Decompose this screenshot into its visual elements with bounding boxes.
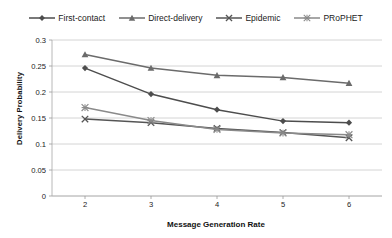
legend-item-prophet[interactable]: PRoPHET (294, 13, 362, 23)
legend-item-direct-delivery[interactable]: Direct-delivery (119, 13, 202, 23)
data-point-first-contact (346, 120, 352, 126)
y-tick-label: 0.25 (14, 62, 46, 71)
legend-marker-diamond-icon (29, 13, 55, 23)
legend-label: PRoPHET (323, 14, 362, 23)
x-axis-title: Message Generation Rate (40, 220, 392, 229)
delivery-probability-chart: First-contactDirect-deliveryEpidemicPRoP… (0, 0, 392, 238)
x-tick-label: 4 (215, 200, 219, 209)
y-tick-label: 0.15 (14, 114, 46, 123)
plot-canvas (0, 28, 392, 238)
legend-marker-cross-icon (216, 13, 242, 23)
legend-item-first-contact[interactable]: First-contact (29, 13, 105, 23)
series-line-direct-delivery (85, 55, 349, 84)
legend-marker-triangle-icon (119, 13, 145, 23)
y-tick-label: 0.05 (14, 166, 46, 175)
data-point-direct-delivery (82, 51, 89, 57)
x-tick-label: 2 (83, 200, 87, 209)
data-point-first-contact (280, 118, 286, 124)
x-tick-label: 5 (281, 200, 285, 209)
data-point-first-contact (214, 107, 220, 113)
y-tick-label: 0.2 (14, 88, 46, 97)
legend-label: First-contact (58, 14, 105, 23)
legend-item-epidemic[interactable]: Epidemic (216, 13, 280, 23)
x-tick-label: 3 (149, 200, 153, 209)
y-tick-label: 0.1 (14, 140, 46, 149)
y-tick-label: 0 (14, 192, 46, 201)
chart-legend: First-contactDirect-deliveryEpidemicPRoP… (0, 8, 392, 28)
legend-label: Direct-delivery (148, 14, 202, 23)
legend-label: Epidemic (245, 14, 280, 23)
plot-area-wrapper: Delivery Probability 00.050.10.150.20.25… (0, 28, 392, 238)
x-tick-label: 6 (347, 200, 351, 209)
y-tick-label: 0.3 (14, 36, 46, 45)
legend-marker-star-icon (294, 13, 320, 23)
y-axis-ticks: 00.050.10.150.20.250.3 (10, 28, 46, 206)
